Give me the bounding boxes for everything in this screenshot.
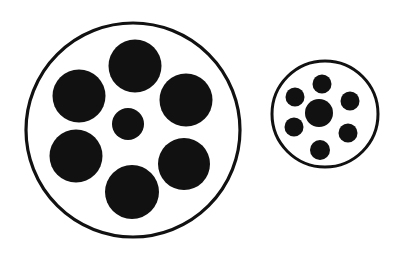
small-center-dot [305,99,333,127]
small-dot-upper-right [341,92,360,111]
ebbinghaus-figure [0,0,400,256]
large-dot-lower-right [158,138,210,190]
large-dot-lower-left [50,130,103,183]
large-group [26,23,240,237]
large-dot-bottom [105,165,159,219]
small-dot-lower-left [285,118,304,137]
small-group [272,61,378,167]
large-dot-upper-right [160,74,213,127]
small-dot-top [313,75,332,94]
small-dot-upper-left [286,88,305,107]
large-center-dot [112,108,144,140]
small-dot-lower-right [339,124,358,143]
large-dot-top [109,40,162,93]
figure-canvas [0,0,400,256]
large-dot-upper-left [53,70,106,123]
small-dot-bottom [310,140,330,160]
